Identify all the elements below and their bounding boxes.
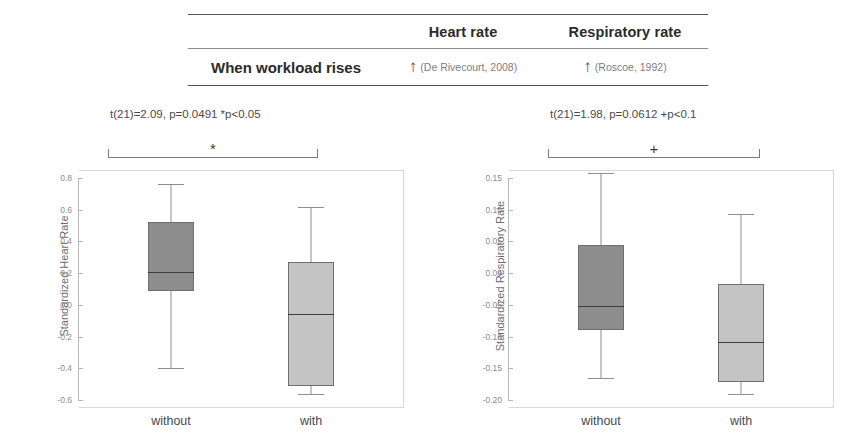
respiratory-rate-x-label-with: with <box>696 414 786 428</box>
heart-rate-significance-bracket: * <box>108 140 318 158</box>
respiratory-rate-significance-marker: + <box>548 142 760 156</box>
arrow-up-icon: ↑ <box>409 57 418 76</box>
whisker-cap-lower <box>158 368 184 369</box>
bracket-bar <box>108 157 318 158</box>
y-axis-tick-label: -0.05 <box>483 300 502 310</box>
heart-rate-plot-area <box>79 178 404 400</box>
heart-rate-x-label-with: with <box>266 414 356 428</box>
y-axis-tick-label: 0.4 <box>60 236 72 246</box>
y-axis-tick-label: -0.10 <box>483 332 502 342</box>
arrow-up-icon: ↑ <box>583 57 592 76</box>
y-axis-tick-label: 0.00 <box>485 268 502 278</box>
box-median-line <box>288 314 334 315</box>
box-median-line <box>148 272 194 273</box>
heart-rate-stats: t(21)=2.09, p=0.0491 *p<0.05 <box>110 108 261 120</box>
box-iqr <box>578 245 624 331</box>
y-axis-tick-label: 0.15 <box>485 173 502 183</box>
heart-rate-x-label-without: without <box>126 414 216 428</box>
y-axis-tick-label: -0.6 <box>57 395 72 405</box>
table-header-blank <box>188 23 384 40</box>
table-header-heart-rate: Heart rate <box>384 15 542 48</box>
bracket-bar <box>548 157 760 158</box>
y-axis-tick-label: -0.20 <box>483 395 502 405</box>
y-axis-tick-label: 0.8 <box>60 173 72 183</box>
whisker-lower <box>311 386 312 394</box>
box-median-line <box>578 306 624 307</box>
whisker-lower <box>741 382 742 393</box>
table-rule-bottom <box>188 85 708 86</box>
respiratory-rate-x-label-without: without <box>556 414 646 428</box>
heart-rate-citation: (De Rivecourt, 2008) <box>420 61 517 73</box>
whisker-cap-lower <box>298 394 324 395</box>
box-plot-without <box>131 178 211 400</box>
box-median-line <box>718 342 764 343</box>
whisker-upper <box>311 207 312 263</box>
y-axis-tick-label: -0.15 <box>483 363 502 373</box>
whisker-upper <box>171 184 172 222</box>
box-plot-without <box>561 178 641 400</box>
table-row-label: When workload rises <box>188 50 384 85</box>
y-axis-tick-label: 0.05 <box>485 236 502 246</box>
bracket-tick-left <box>108 149 109 158</box>
y-axis-tick <box>508 400 513 401</box>
whisker-cap-upper <box>728 214 754 215</box>
y-axis-tick-label: 0.2 <box>60 268 72 278</box>
whisker-lower <box>171 291 172 369</box>
heart-rate-significance-marker: * <box>108 142 318 156</box>
y-axis-tick-label: 0.10 <box>485 205 502 215</box>
whisker-cap-upper <box>588 173 614 174</box>
respiratory-rate-plot: Standardized Respiratory Rate 0.150.100.… <box>452 170 852 437</box>
y-axis-tick-label: 0.6 <box>60 205 72 215</box>
y-axis-tick-label: -0.2 <box>57 332 72 342</box>
table-cell-heart-rate: ↑(De Rivecourt, 2008) <box>384 49 542 85</box>
whisker-cap-lower <box>588 378 614 379</box>
table-cell-respiratory-rate: ↑(Roscoe, 1992) <box>542 49 708 85</box>
box-plot-with <box>271 178 351 400</box>
y-axis-tick-label: -0.4 <box>57 363 72 373</box>
whisker-cap-upper <box>298 207 324 208</box>
y-axis-tick-label: 0.0 <box>60 300 72 310</box>
whisker-upper <box>601 173 602 245</box>
box-iqr <box>288 262 334 386</box>
y-axis-tick <box>78 400 83 401</box>
box-iqr <box>148 222 194 290</box>
bracket-tick-right <box>759 149 760 158</box>
bracket-tick-left <box>548 149 549 158</box>
respiratory-rate-citation: (Roscoe, 1992) <box>595 61 667 73</box>
whisker-cap-lower <box>728 394 754 395</box>
box-iqr <box>718 284 764 382</box>
heart-rate-plot: Standardized Heart Rate 0.80.60.40.20.0-… <box>22 170 422 437</box>
whisker-upper <box>741 214 742 284</box>
summary-table: Heart rate Respiratory rate When workloa… <box>188 14 708 86</box>
whisker-cap-upper <box>158 184 184 185</box>
table-body-row: When workload rises ↑(De Rivecourt, 2008… <box>188 49 708 85</box>
respiratory-rate-significance-bracket: + <box>548 140 760 158</box>
bracket-tick-right <box>317 149 318 158</box>
respiratory-rate-plot-area <box>509 178 834 400</box>
respiratory-rate-stats: t(21)=1.98, p=0.0612 +p<0.1 <box>550 108 696 120</box>
whisker-lower <box>601 330 602 378</box>
table-header-row: Heart rate Respiratory rate <box>188 15 708 48</box>
table-header-respiratory-rate: Respiratory rate <box>542 15 708 48</box>
box-plot-with <box>701 178 781 400</box>
